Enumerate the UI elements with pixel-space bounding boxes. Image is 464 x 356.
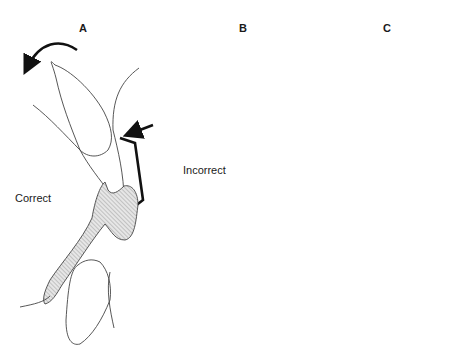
caption-correct: Correct [15, 192, 51, 204]
force-arrow-icon [132, 125, 153, 133]
panel-label-a: A [79, 22, 87, 34]
upper-tooth-a [51, 62, 111, 156]
dental-clasp-diagram: A B C Correct Incorrect [0, 0, 464, 356]
panel-label-c: C [383, 22, 391, 34]
gum-line-a-left [33, 105, 110, 193]
gum-line-a-right [113, 68, 139, 200]
caption-incorrect: Incorrect [183, 164, 226, 176]
panel-label-b: B [239, 22, 247, 34]
abutment-tooth-a [44, 182, 138, 304]
diagram-drawing [0, 0, 464, 356]
